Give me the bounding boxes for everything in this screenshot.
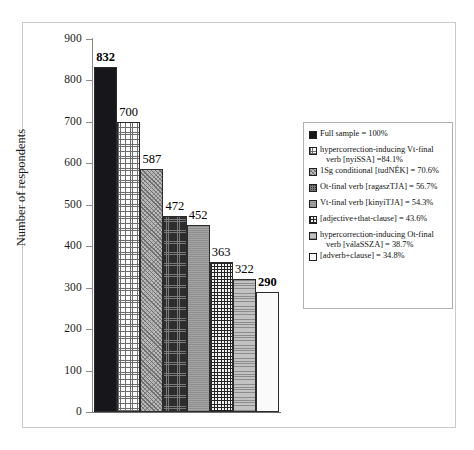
legend-label-line1: hypercorrection-inducing Ot-final xyxy=(320,230,434,239)
legend-item-label: 1Sg conditional [tudNÉK] = 70.6% xyxy=(320,166,439,176)
legend-label-line2: verb [nyiSSA] =84.1% xyxy=(320,155,434,165)
legend-item-label: Vt-final verb [kinyiTJA] = 54.3% xyxy=(320,198,433,208)
bar-value-label: 832 xyxy=(84,51,128,64)
chart-legend: Full sample = 100%hypercorrection-induci… xyxy=(303,122,453,309)
legend-item-4[interactable]: Ot-final verb [ragaszTJA] = 56.7% xyxy=(309,182,447,192)
y-axis-tick xyxy=(86,163,93,164)
y-axis-line xyxy=(92,38,93,413)
plot-area xyxy=(94,39,279,412)
legend-swatch-icon xyxy=(309,184,317,192)
y-axis-tick-label: 100 xyxy=(38,365,82,377)
legend-label-line1: Ot-final verb [ragaszTJA] = 56.7% xyxy=(320,182,438,191)
legend-item-label: Full sample = 100% xyxy=(320,129,388,139)
y-axis-tick xyxy=(86,80,93,81)
legend-label-line1: Vt-final verb [kinyiTJA] = 54.3% xyxy=(320,198,433,207)
bar-7[interactable] xyxy=(233,279,256,412)
legend-swatch-icon xyxy=(309,168,317,176)
legend-label-line1: 1Sg conditional [tudNÉK] = 70.6% xyxy=(320,166,439,175)
bar-value-label: 700 xyxy=(107,106,151,119)
bar-4[interactable] xyxy=(163,216,186,412)
bar-value-label: 290 xyxy=(245,276,289,289)
y-axis-tick-label: 200 xyxy=(38,323,82,335)
legend-label-line1: Full sample = 100% xyxy=(320,129,388,138)
y-axis-tick-label: 0 xyxy=(38,406,82,418)
y-axis-tick xyxy=(86,39,93,40)
y-axis-tick xyxy=(86,246,93,247)
y-axis-tick xyxy=(86,329,93,330)
y-axis-tick xyxy=(86,205,93,206)
legend-item-1[interactable]: Full sample = 100% xyxy=(309,129,447,139)
legend-label-line2: verb [válaSSZA] = 38.7% xyxy=(320,240,434,250)
bar-value-label: 587 xyxy=(130,153,174,166)
y-axis-tick-label: 600 xyxy=(38,157,82,169)
bar-value-label: 322 xyxy=(222,263,266,276)
bar-value-label: 363 xyxy=(199,246,243,259)
bar-value-label: 452 xyxy=(176,209,220,222)
y-axis-tick-label: 300 xyxy=(38,282,82,294)
bar-8[interactable] xyxy=(256,292,279,412)
y-axis-tick-label: 700 xyxy=(38,116,82,128)
legend-item-7[interactable]: hypercorrection-inducing Ot-finalverb [v… xyxy=(309,230,447,249)
y-axis-tick xyxy=(86,288,93,289)
legend-swatch-icon xyxy=(309,216,317,224)
x-axis-baseline xyxy=(92,412,281,413)
y-axis-title: Number of respondents xyxy=(14,93,29,283)
y-axis-tick-label: 800 xyxy=(38,74,82,86)
legend-item-2[interactable]: hypercorrection-inducing Vt-finalverb [n… xyxy=(309,145,447,164)
y-axis-tick xyxy=(86,412,93,413)
legend-item-label: [adverb+clause] = 34.8% xyxy=(320,251,405,261)
legend-label-line1: [adverb+clause] = 34.8% xyxy=(320,251,405,260)
y-axis-tick-label: 900 xyxy=(38,33,82,45)
bar-chart-figure: Number of respondents 900800700600500400… xyxy=(0,0,474,450)
legend-item-label: Ot-final verb [ragaszTJA] = 56.7% xyxy=(320,182,438,192)
bar-1[interactable] xyxy=(94,67,117,412)
legend-item-5[interactable]: Vt-final verb [kinyiTJA] = 54.3% xyxy=(309,198,447,208)
legend-item-label: [adjective+that-clause] = 43.6% xyxy=(320,214,427,224)
bar-6[interactable] xyxy=(210,262,233,412)
legend-swatch-icon xyxy=(309,131,317,139)
legend-item-label: hypercorrection-inducing Vt-finalverb [n… xyxy=(320,145,434,164)
legend-swatch-icon xyxy=(309,147,317,155)
legend-swatch-icon xyxy=(309,200,317,208)
legend-item-8[interactable]: [adverb+clause] = 34.8% xyxy=(309,251,447,261)
legend-label-line1: hypercorrection-inducing Vt-final xyxy=(320,145,434,154)
legend-label-line1: [adjective+that-clause] = 43.6% xyxy=(320,214,427,223)
y-axis-tick-labels: 9008007006005004003002001000 xyxy=(38,0,82,450)
y-axis-tick xyxy=(86,122,93,123)
legend-item-6[interactable]: [adjective+that-clause] = 43.6% xyxy=(309,214,447,224)
y-axis-tick xyxy=(86,371,93,372)
legend-item-label: hypercorrection-inducing Ot-finalverb [v… xyxy=(320,230,434,249)
legend-item-3[interactable]: 1Sg conditional [tudNÉK] = 70.6% xyxy=(309,166,447,176)
legend-swatch-icon xyxy=(309,253,317,261)
y-axis-tick-label: 500 xyxy=(38,199,82,211)
legend-swatch-icon xyxy=(309,232,317,240)
y-axis-tick-label: 400 xyxy=(38,240,82,252)
